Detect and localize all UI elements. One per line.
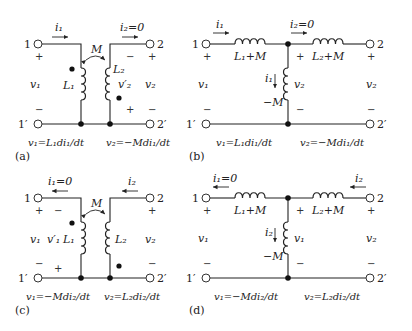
terminal-label-1-prime: 1′ (18, 272, 28, 285)
current-label-i1: i₁ (216, 18, 224, 31)
terminal-2 (366, 194, 374, 202)
current-label-i2: i₂ (355, 172, 363, 185)
current-label-i2: i₂=0 (290, 18, 314, 31)
induced-voltage-label: v′₂ (118, 78, 131, 91)
minus-sign: − (203, 104, 211, 115)
plus-sign: + (148, 51, 156, 62)
current-label-i1: i₁=0 (213, 172, 237, 185)
voltage-label-v1: v₁ (198, 232, 209, 245)
plus-sign: + (126, 104, 134, 115)
inductor-l2-plus-m (313, 39, 343, 44)
terminal-2 (146, 40, 154, 48)
terminal-1-prime (202, 274, 210, 282)
mutual-label: M (90, 43, 103, 56)
terminal-label-2: 2 (157, 38, 164, 51)
series-inductor-label-right: L₂+M (311, 50, 345, 63)
voltage-label-v1: v₁ (30, 233, 41, 246)
voltage-label-v1: v₁ (30, 78, 41, 91)
panel-label: (d) (189, 304, 205, 317)
plus-sign: + (367, 51, 375, 62)
junction-node (78, 121, 84, 127)
terminal-2-prime (146, 120, 154, 128)
shunt-current-label: i₁ (265, 72, 273, 85)
equation-right: v₂=−Mdi₁/dt (300, 137, 365, 148)
series-inductor-label-left: L₁+M (233, 50, 267, 63)
junction-node (107, 121, 113, 127)
induced-voltage-label: v′₁ (47, 233, 60, 246)
inductor-label-l2: L₂ (114, 233, 127, 246)
inductor-l2-plus-m (313, 193, 343, 198)
panel-b: 2 2′ 1 1′ i₁ i₂=0 L₁+M L₂+M i₁ v₂ −M v₁ … (186, 18, 387, 163)
equation-left: v₁=−Mdi₂/dt (26, 291, 91, 302)
equation-right: v₂=L₂di₂/dt (304, 291, 361, 302)
shunt-inductor-label: −M (263, 96, 284, 109)
inductor-minus-m (284, 68, 289, 100)
junction-node (78, 275, 84, 281)
voltage-label-v1: v₁ (198, 78, 209, 91)
plus-sign: + (296, 205, 304, 216)
panel-a: 1 1′ 2 2′ i₁ i₂=0 M L₁ L₂ v₁ v′₂ v₂ + − … (15, 21, 171, 163)
plus-sign: + (35, 51, 43, 62)
inductor-label-l1: L₁ (62, 79, 75, 92)
panel-d: 2 2′ 1 1′ i₁=0 i₂ L₁+M L₂+M i₂ v₁ −M v₁ … (186, 172, 387, 317)
voltage-label-v2: v₂ (145, 233, 156, 246)
mutual-coupling-arrow (86, 210, 105, 214)
polarity-dot (116, 263, 121, 268)
current-label-i2: i₂=0 (120, 21, 144, 34)
junction-node (285, 275, 291, 281)
panel-label: (a) (15, 150, 30, 163)
plus-sign: + (296, 51, 304, 62)
panel-c: 1 1′ 2 2′ i₁=0 i₂ M L₁ L₂ v₁ v′₁ v₂ + − … (15, 175, 167, 317)
terminal-label-2-prime: 2′ (157, 118, 167, 131)
terminal-label-2: 2 (157, 192, 164, 205)
minus-sign: − (367, 104, 375, 115)
polarity-dot (69, 66, 74, 71)
inductor-label-l1: L₁ (62, 233, 75, 246)
polarity-dot (69, 220, 74, 225)
voltage-label-v2: v₂ (366, 232, 377, 245)
terminal-label-2-prime: 2′ (377, 118, 387, 131)
equation-right: v₂=−Mdi₁/dt (106, 137, 171, 148)
terminal-label-2: 2 (377, 38, 384, 51)
inductor-l1 (81, 68, 86, 100)
junction-node (107, 275, 113, 281)
equation-left: v₁=−Mdi₂/dt (214, 291, 279, 302)
terminal-label-1: 1 (192, 192, 199, 205)
equation-left: v₁=L₁di₁/dt (216, 137, 273, 148)
wire (42, 44, 81, 68)
panel-label: (c) (15, 304, 30, 317)
inductor-l2 (106, 68, 111, 100)
plus-sign: + (203, 51, 211, 62)
panel-label: (b) (189, 150, 205, 163)
mutual-coupling-arrow (86, 56, 105, 60)
terminal-1-prime (34, 274, 42, 282)
junction-node (285, 41, 291, 47)
inductor-l1 (81, 222, 86, 254)
plus-sign: + (35, 205, 43, 216)
terminal-label-1: 1 (24, 38, 31, 51)
shunt-current-label: i₂ (265, 226, 273, 239)
equation-right: v₂=L₂di₂/dt (104, 291, 161, 302)
inductor-l1-plus-m (235, 39, 265, 44)
terminal-label-1-prime: 1′ (186, 118, 196, 131)
terminal-1 (34, 40, 42, 48)
terminal-label-1-prime: 1′ (186, 272, 196, 285)
equation-left: v₁=L₁di₁/dt (28, 137, 85, 148)
inductor-minus-m (284, 222, 289, 254)
junction-node (285, 121, 291, 127)
junction-node (285, 195, 291, 201)
current-label-i1: i₁=0 (48, 175, 72, 188)
minus-sign: − (296, 258, 304, 269)
terminal-1 (202, 40, 210, 48)
terminal-label-2: 2 (377, 192, 384, 205)
circuit-diagram: 1 1′ 2 2′ i₁ i₂=0 M L₁ L₂ v₁ v′₂ v₂ + − … (0, 0, 412, 331)
terminal-2-prime (366, 274, 374, 282)
terminal-1-prime (202, 120, 210, 128)
plus-sign: + (203, 205, 211, 216)
plus-sign: + (54, 263, 62, 274)
voltage-label-v2: v₂ (366, 78, 377, 91)
terminal-label-1: 1 (24, 192, 31, 205)
shunt-voltage-label: v₁ (294, 232, 305, 245)
terminal-1 (202, 194, 210, 202)
current-label-i2: i₂ (128, 175, 136, 188)
